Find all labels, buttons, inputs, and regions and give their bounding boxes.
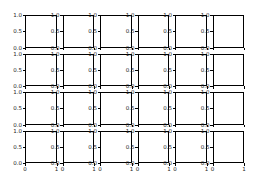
y-tick-mark bbox=[60, 147, 63, 148]
y-tick-label: 0.5 bbox=[196, 28, 210, 34]
y-tick-label: 1.0 bbox=[83, 51, 97, 57]
y-tick-label: 0.5 bbox=[158, 144, 172, 150]
y-tick-mark bbox=[23, 31, 26, 32]
y-tick-mark bbox=[60, 131, 63, 132]
y-tick-label: 1.0 bbox=[158, 128, 172, 134]
y-tick-mark bbox=[173, 131, 176, 132]
y-tick-mark bbox=[210, 54, 213, 55]
y-tick-mark bbox=[23, 92, 26, 93]
subplot-axes bbox=[213, 15, 245, 48]
y-tick-label: 0.5 bbox=[83, 105, 97, 111]
y-tick-label: 1.0 bbox=[83, 12, 97, 18]
y-tick-mark bbox=[135, 54, 138, 55]
y-tick-label: 0.0 bbox=[83, 160, 97, 166]
subplot-grid-figure: 0.00.51.00.00.51.00.00.51.00.00.51.00.00… bbox=[0, 0, 253, 177]
x-tick-mark bbox=[100, 48, 101, 51]
x-tick-mark bbox=[63, 86, 64, 89]
y-tick-label: 1.0 bbox=[83, 89, 97, 95]
x-tick-label: 0 bbox=[209, 166, 217, 172]
y-tick-label: 0.0 bbox=[158, 160, 172, 166]
x-tick-mark bbox=[63, 48, 64, 51]
x-tick-mark bbox=[213, 86, 214, 89]
y-tick-label: 1.0 bbox=[46, 12, 60, 18]
x-tick-mark bbox=[244, 125, 245, 128]
y-tick-mark bbox=[98, 31, 101, 32]
y-tick-label: 0.0 bbox=[46, 160, 60, 166]
y-tick-label: 0.0 bbox=[196, 160, 210, 166]
y-tick-label: 0.5 bbox=[8, 105, 22, 111]
y-tick-mark bbox=[98, 54, 101, 55]
y-tick-label: 1.0 bbox=[121, 89, 135, 95]
x-tick-label: 0 bbox=[96, 166, 104, 172]
x-tick-label: 0 bbox=[134, 166, 142, 172]
y-tick-mark bbox=[98, 15, 101, 16]
y-tick-label: 1.0 bbox=[8, 128, 22, 134]
x-tick-mark bbox=[213, 48, 214, 51]
y-tick-mark bbox=[135, 70, 138, 71]
y-tick-label: 0.5 bbox=[46, 67, 60, 73]
x-tick-mark bbox=[138, 125, 139, 128]
y-tick-label: 0.5 bbox=[8, 28, 22, 34]
x-tick-mark bbox=[244, 48, 245, 51]
y-tick-mark bbox=[98, 92, 101, 93]
y-tick-label: 1.0 bbox=[158, 89, 172, 95]
y-tick-label: 1.0 bbox=[83, 128, 97, 134]
y-tick-label: 0.5 bbox=[46, 105, 60, 111]
y-tick-label: 1.0 bbox=[196, 128, 210, 134]
y-tick-label: 1.0 bbox=[46, 128, 60, 134]
y-tick-mark bbox=[60, 15, 63, 16]
y-tick-mark bbox=[23, 70, 26, 71]
x-tick-label: 0 bbox=[171, 166, 179, 172]
y-tick-label: 1.0 bbox=[121, 12, 135, 18]
y-tick-mark bbox=[210, 92, 213, 93]
y-tick-label: 0.5 bbox=[158, 105, 172, 111]
x-tick-label: 0 bbox=[21, 166, 29, 172]
y-tick-mark bbox=[60, 92, 63, 93]
y-tick-mark bbox=[173, 15, 176, 16]
y-tick-label: 0.5 bbox=[196, 67, 210, 73]
y-tick-mark bbox=[60, 70, 63, 71]
x-tick-mark bbox=[100, 125, 101, 128]
y-tick-mark bbox=[135, 147, 138, 148]
y-tick-mark bbox=[60, 31, 63, 32]
x-tick-mark bbox=[244, 86, 245, 89]
y-tick-label: 1.0 bbox=[196, 89, 210, 95]
x-tick-mark bbox=[63, 125, 64, 128]
y-tick-mark bbox=[210, 131, 213, 132]
y-tick-mark bbox=[98, 131, 101, 132]
y-tick-mark bbox=[173, 31, 176, 32]
x-tick-mark bbox=[138, 48, 139, 51]
y-tick-mark bbox=[135, 131, 138, 132]
y-tick-mark bbox=[98, 108, 101, 109]
y-tick-mark bbox=[98, 70, 101, 71]
y-tick-label: 0.0 bbox=[121, 160, 135, 166]
y-tick-mark bbox=[210, 31, 213, 32]
x-tick-mark bbox=[175, 86, 176, 89]
y-tick-label: 1.0 bbox=[196, 12, 210, 18]
y-tick-label: 1.0 bbox=[46, 51, 60, 57]
y-tick-label: 0.5 bbox=[121, 28, 135, 34]
subplot-axes bbox=[213, 131, 245, 164]
y-tick-mark bbox=[173, 54, 176, 55]
y-tick-label: 0.5 bbox=[196, 105, 210, 111]
y-tick-label: 1.0 bbox=[8, 12, 22, 18]
y-tick-mark bbox=[210, 70, 213, 71]
y-tick-label: 0.5 bbox=[121, 105, 135, 111]
y-tick-label: 1.0 bbox=[121, 51, 135, 57]
y-tick-label: 0.5 bbox=[8, 67, 22, 73]
x-tick-mark bbox=[100, 86, 101, 89]
x-tick-mark bbox=[25, 48, 26, 51]
y-tick-label: 1.0 bbox=[196, 51, 210, 57]
x-tick-mark bbox=[175, 125, 176, 128]
subplot-axes bbox=[213, 92, 245, 125]
y-tick-mark bbox=[173, 147, 176, 148]
y-tick-label: 0.5 bbox=[8, 144, 22, 150]
y-tick-label: 1.0 bbox=[158, 51, 172, 57]
y-tick-label: 0.5 bbox=[83, 28, 97, 34]
y-tick-mark bbox=[23, 108, 26, 109]
y-tick-mark bbox=[173, 92, 176, 93]
x-tick-label: 1 bbox=[240, 166, 248, 172]
y-tick-label: 0.5 bbox=[196, 144, 210, 150]
y-tick-label: 1.0 bbox=[46, 89, 60, 95]
y-tick-mark bbox=[135, 15, 138, 16]
